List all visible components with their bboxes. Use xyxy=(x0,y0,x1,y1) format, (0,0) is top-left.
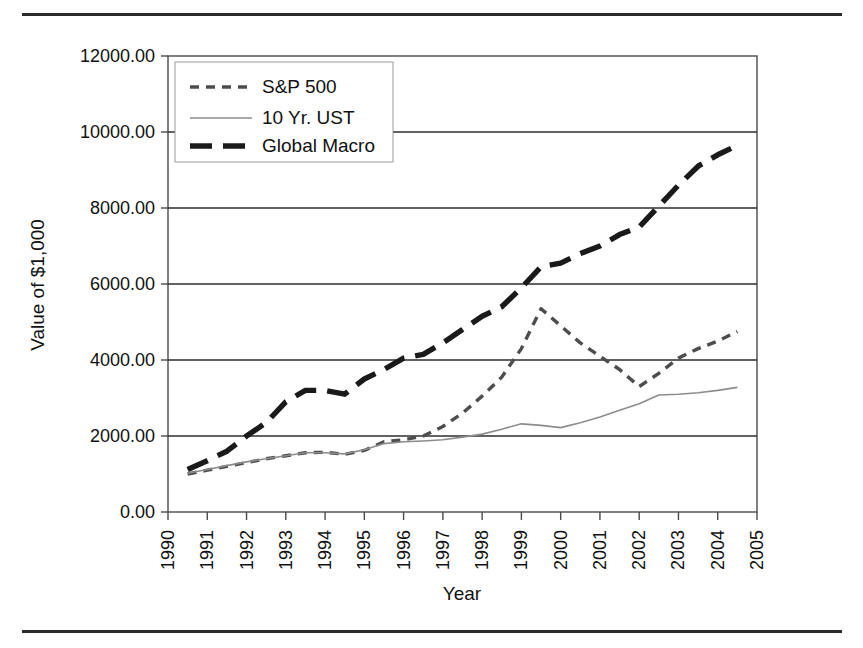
x-axis-title: Year xyxy=(443,583,482,604)
x-tick-label: 1997 xyxy=(433,530,453,570)
x-tick-label: 2000 xyxy=(551,530,571,570)
x-tick-label: 1995 xyxy=(354,530,374,570)
legend-label: Global Macro xyxy=(262,135,375,156)
x-tick-label: 2003 xyxy=(668,530,688,570)
y-axis-title: Value of $1,000 xyxy=(27,219,48,351)
x-tick-label: 2005 xyxy=(747,530,767,570)
series-line xyxy=(188,309,738,474)
x-tick-label: 1998 xyxy=(472,530,492,570)
figure: 0.002000.004000.006000.008000.0010000.00… xyxy=(0,0,863,648)
x-tick-label: 2004 xyxy=(708,530,728,570)
legend-label: 10 Yr. UST xyxy=(262,107,355,128)
gridlines xyxy=(168,132,757,436)
x-tick-label: 2001 xyxy=(590,530,610,570)
x-axis-tick-labels: 1990199119921993199419951996199719981999… xyxy=(158,530,767,570)
x-tick-label: 1993 xyxy=(276,530,296,570)
series-line xyxy=(188,387,738,473)
x-tick-label: 1994 xyxy=(315,530,335,570)
legend-label: S&P 500 xyxy=(262,76,337,97)
y-tick-label: 12000.00 xyxy=(80,46,155,66)
y-tick-label: 6000.00 xyxy=(90,274,155,294)
series-line xyxy=(188,145,738,469)
x-tick-label: 1996 xyxy=(394,530,414,570)
x-tick-label: 1999 xyxy=(511,530,531,570)
data-series-group xyxy=(188,145,738,474)
x-tick-label: 1990 xyxy=(158,530,178,570)
x-tick-label: 1992 xyxy=(237,530,257,570)
x-axis-ticks xyxy=(168,512,757,520)
y-axis-tick-labels: 0.002000.004000.006000.008000.0010000.00… xyxy=(80,46,155,522)
line-chart: 0.002000.004000.006000.008000.0010000.00… xyxy=(0,0,863,648)
y-tick-label: 2000.00 xyxy=(90,426,155,446)
legend: S&P 50010 Yr. USTGlobal Macro xyxy=(175,62,393,162)
y-axis-ticks xyxy=(161,56,168,512)
y-tick-label: 4000.00 xyxy=(90,350,155,370)
y-tick-label: 8000.00 xyxy=(90,198,155,218)
x-tick-label: 2002 xyxy=(629,530,649,570)
y-tick-label: 0.00 xyxy=(120,502,155,522)
y-tick-label: 10000.00 xyxy=(80,122,155,142)
x-tick-label: 1991 xyxy=(197,530,217,570)
